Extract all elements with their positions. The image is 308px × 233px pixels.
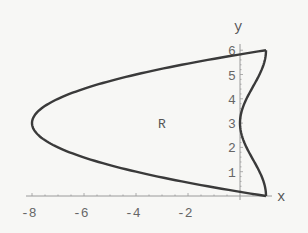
x-axis-label: x: [277, 189, 285, 205]
right-boundary-curve: [240, 50, 266, 196]
y-tick-label: 3: [228, 117, 236, 132]
y-tick-label: 1: [228, 166, 236, 181]
tick-labels: -8-6-4-2123456: [21, 44, 236, 221]
region-label: R: [158, 117, 166, 132]
x-tick-label: -4: [125, 206, 141, 221]
x-tick-label: -6: [73, 206, 89, 221]
y-tick-label: 4: [228, 93, 236, 108]
chart-container: -8-6-4-2123456 x y R: [0, 0, 308, 233]
y-axis-label: y: [234, 19, 242, 35]
x-tick-label: -2: [177, 206, 193, 221]
y-tick-label: 5: [228, 69, 236, 84]
chart-svg: -8-6-4-2123456 x y R: [0, 0, 308, 233]
y-tick-label: 2: [228, 141, 236, 156]
x-tick-label: -8: [21, 206, 37, 221]
